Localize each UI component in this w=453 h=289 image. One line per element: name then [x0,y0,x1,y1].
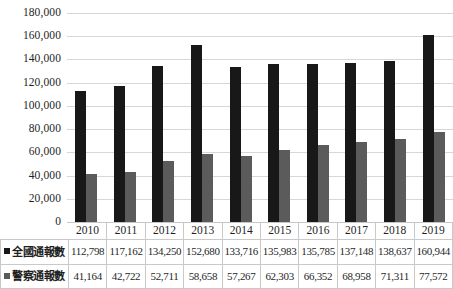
cell-value: 117,162 [107,246,144,257]
legend-label-series-1: 警察通報數 [12,271,65,282]
bar-2013-series-1[interactable] [202,154,213,222]
table-cell-series-1-2010: 41,164 [69,264,107,288]
table-cell-series-1-2011: 42,722 [107,264,145,288]
table-header-year: 2010 [69,222,107,240]
bar-group [183,13,222,222]
data-table: 2010201120122013201420152016201720182019… [0,222,453,289]
table-cell-series-0-2016: 135,785 [299,240,337,264]
table-row-years: 2010201120122013201420152016201720182019 [1,222,453,240]
y-axis-tick-label: 100,000 [23,100,61,112]
table-cell-series-1-2013: 58,658 [184,264,222,288]
cell-value: 138,637 [376,246,413,257]
table-cell-series-0-2018: 138,637 [376,240,414,264]
bar-2016-series-0[interactable] [307,64,318,222]
bar-2012-series-1[interactable] [163,161,174,222]
bar-2012-series-0[interactable] [152,66,163,222]
bar-group [144,13,183,222]
cell-value: 42,722 [107,271,144,282]
table-cell-series-1-2014: 57,267 [222,264,260,288]
table-header-year: 2014 [222,222,260,240]
bar-2016-series-1[interactable] [318,145,329,222]
table-cell-series-1-2018: 71,311 [376,264,414,288]
bar-2018-series-0[interactable] [384,61,395,222]
y-axis-tick-label: 80,000 [29,123,61,135]
table-cell-series-1-2012: 52,711 [145,264,183,288]
bar-2011-series-1[interactable] [125,172,136,222]
cell-value: 66,352 [299,271,336,282]
cell-value: 135,983 [261,246,298,257]
bars-area [67,0,453,224]
table-cell-series-0-2012: 134,250 [145,240,183,264]
table-row-series-0: 全國通報數 112,798117,162134,250152,680133,71… [1,240,453,264]
bar-2019-series-1[interactable] [434,132,445,222]
year-label: 2015 [261,225,298,236]
table-cell-series-0-2015: 135,983 [260,240,298,264]
y-axis-tick-label: 20,000 [29,193,61,205]
table-cell-series-0-2017: 137,148 [337,240,375,264]
year-label: 2016 [299,225,336,236]
table-cell-series-1-2017: 68,958 [337,264,375,288]
bar-2015-series-1[interactable] [279,150,290,222]
cell-value: 134,250 [146,246,183,257]
table-cell-series-0-2019: 160,944 [414,240,452,264]
table-cell-series-0-2011: 117,162 [107,240,145,264]
cell-value: 135,785 [299,246,336,257]
table-cell-series-1-2019: 77,572 [414,264,452,288]
table-cell-series-1-2015: 62,303 [260,264,298,288]
bar-2015-series-0[interactable] [268,64,279,222]
table-header-year: 2019 [414,222,452,240]
y-axis-tick-label: 120,000 [23,77,61,89]
year-label: 2018 [376,225,413,236]
table-corner-cell [1,222,69,240]
legend-swatch-icon-series-0 [4,248,10,254]
bar-group [221,13,260,222]
cell-value: 62,303 [261,271,298,282]
legend-label-series-0: 全國通報數 [12,247,65,258]
cell-value: 57,267 [223,271,260,282]
table-header-year: 2018 [376,222,414,240]
year-label: 2012 [146,225,183,236]
bar-2010-series-1[interactable] [86,174,97,222]
table-cell-series-0-2010: 112,798 [69,240,107,264]
bar-chart: 180,000160,000140,000120,000100,00080,00… [0,0,453,289]
y-axis-tick-label: 180,000 [23,7,61,19]
bar-2014-series-1[interactable] [241,156,252,222]
table-header-year: 2011 [107,222,145,240]
y-axis-tick-label: 140,000 [23,53,61,65]
year-label: 2013 [184,225,221,236]
cell-value: 152,680 [184,246,221,257]
bar-2017-series-1[interactable] [356,142,367,222]
bar-2011-series-0[interactable] [114,86,125,222]
bar-2014-series-0[interactable] [230,67,241,222]
bar-group [67,13,106,222]
data-table-body: 2010201120122013201420152016201720182019… [1,222,453,289]
bar-group [376,13,415,222]
bar-group [299,13,338,222]
year-label: 2019 [415,225,452,236]
bar-2013-series-0[interactable] [191,45,202,222]
bar-2019-series-0[interactable] [423,35,434,222]
legend-swatch-icon-series-1 [4,273,10,279]
table-cell-series-0-2014: 133,716 [222,240,260,264]
plot-area: 180,000160,000140,000120,000100,00080,00… [0,0,453,224]
bar-group [414,13,453,222]
y-axis-tick-label: 60,000 [29,146,61,158]
cell-value: 137,148 [338,246,375,257]
table-row-series-1: 警察通報數 41,16442,72252,71158,65857,26762,3… [1,264,453,288]
bar-group [106,13,145,222]
table-cell-series-1-2016: 66,352 [299,264,337,288]
legend-item-series-1[interactable]: 警察通報數 [1,264,69,288]
bar-2017-series-0[interactable] [345,63,356,222]
table-cell-series-0-2013: 152,680 [184,240,222,264]
cell-value: 160,944 [415,246,452,257]
legend-item-series-0[interactable]: 全國通報數 [1,240,69,264]
bar-2010-series-0[interactable] [75,91,86,222]
year-label: 2011 [107,225,144,236]
y-axis-tick-label: 40,000 [29,170,61,182]
y-axis: 180,000160,000140,000120,000100,00080,00… [0,0,64,224]
cell-value: 41,164 [69,271,106,282]
y-axis-tick-label: 160,000 [23,30,61,42]
year-label: 2010 [69,225,107,236]
cell-value: 68,958 [338,271,375,282]
bar-2018-series-1[interactable] [395,139,406,222]
